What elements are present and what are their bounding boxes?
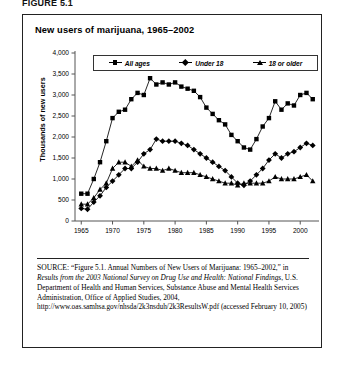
svg-text:3,500: 3,500 [52,70,69,77]
source-text-1: “Figure 5.1. Annual Numbers of New Users… [69,263,288,272]
svg-text:1995: 1995 [262,227,277,234]
source-italic-title: Results from the 2003 National Survey on… [37,273,281,282]
source-prefix: SOURCE: [37,263,69,272]
plot-area: 05001,0001,5002,0002,5003,0003,5004,0001… [23,45,323,257]
svg-text:2000: 2000 [293,227,308,234]
figure-box: New users of marijuana, 1965–2002 All ag… [22,14,322,348]
svg-text:2,500: 2,500 [52,112,69,119]
svg-text:1980: 1980 [168,227,183,234]
figure-label: FIGURE 5.1 [22,0,73,8]
svg-text:3,000: 3,000 [52,91,69,98]
svg-text:1975: 1975 [136,227,151,234]
svg-text:1990: 1990 [230,227,245,234]
svg-text:500: 500 [58,196,69,203]
svg-text:1,000: 1,000 [52,175,69,182]
svg-text:1970: 1970 [105,227,120,234]
svg-text:1965: 1965 [74,227,89,234]
chart-title: New users of marijuana, 1965–2002 [35,25,194,35]
svg-text:0: 0 [65,217,69,224]
line-chart-svg: 05001,0001,5002,0002,5003,0003,5004,0001… [23,45,323,257]
svg-text:4,000: 4,000 [52,49,69,56]
source-divider [37,258,309,259]
svg-text:1985: 1985 [199,227,214,234]
svg-text:1,500: 1,500 [52,154,69,161]
svg-text:2,000: 2,000 [52,133,69,140]
source-note: SOURCE: “Figure 5.1. Annual Numbers of N… [37,263,311,312]
figure-container: FIGURE 5.1 New users of marijuana, 1965–… [0,0,351,369]
